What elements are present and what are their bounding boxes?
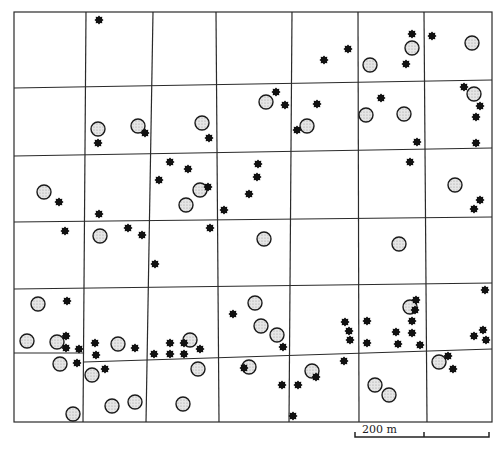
site-markers	[20, 36, 481, 421]
findspot-star-icon	[345, 335, 354, 344]
findspot-star-icon	[415, 340, 424, 349]
findspot-star-icon	[61, 331, 70, 340]
site-circle-icon	[91, 122, 105, 136]
grid-line-vertical	[358, 12, 359, 422]
findspot-star-icon	[407, 328, 416, 337]
site-circle-icon	[66, 407, 80, 421]
grid-line-horizontal	[84, 349, 492, 362]
findspot-star-icon	[362, 338, 371, 347]
grid-line-horizontal	[14, 283, 492, 289]
findspot-star-icon	[94, 209, 103, 218]
findspot-star-icon	[253, 159, 262, 168]
findspot-star-icon	[123, 223, 132, 232]
site-circle-icon	[93, 229, 107, 243]
grid-line-vertical	[289, 12, 292, 422]
site-circle-icon	[257, 232, 271, 246]
findspot-star-icon	[91, 350, 100, 359]
grid-line-horizontal	[14, 148, 492, 156]
scale-bar-label: 200 m	[362, 423, 397, 436]
findspot-star-icon	[481, 335, 490, 344]
site-circle-icon	[270, 328, 284, 342]
findspot-star-icon	[74, 344, 83, 353]
grid-line-horizontal	[14, 217, 492, 222]
findspot-star-icon	[480, 285, 489, 294]
site-circle-icon	[259, 95, 273, 109]
site-circle-icon	[363, 58, 377, 72]
findspot-star-icon	[271, 87, 280, 96]
grid-line-vertical	[83, 12, 86, 422]
findspot-star-icon	[312, 99, 321, 108]
site-circle-icon	[128, 395, 142, 409]
site-circle-icon	[465, 36, 479, 50]
findspot-star-icon	[94, 15, 103, 24]
findspot-star-icon	[411, 295, 420, 304]
findspot-star-icon	[165, 338, 174, 347]
findspot-star-icon	[280, 100, 289, 109]
findspot-star-icon	[401, 59, 410, 68]
findspot-star-icon	[219, 205, 228, 214]
site-circle-icon	[368, 378, 382, 392]
findspot-star-icon	[443, 351, 452, 360]
findspot-star-icon	[100, 364, 109, 373]
findspot-star-icon	[195, 344, 204, 353]
site-circle-icon	[50, 335, 64, 349]
findspot-star-icon	[140, 128, 149, 137]
findspot-star-icon	[61, 343, 70, 352]
findspot-star-icon	[165, 157, 174, 166]
findspot-star-icon	[391, 327, 400, 336]
findspot-star-icon	[179, 338, 188, 347]
findspot-star-icon	[410, 305, 419, 314]
findspot-star-icon	[228, 309, 237, 318]
findspot-star-icon	[340, 317, 349, 326]
findspot-star-icon	[90, 338, 99, 347]
grid-line-vertical	[424, 12, 427, 422]
site-circle-icon	[300, 119, 314, 133]
findspot-star-icon	[203, 182, 212, 191]
findspot-star-icon	[459, 82, 468, 91]
findspot-star-icon	[448, 364, 457, 373]
findspot-star-icon	[62, 296, 71, 305]
site-circle-icon	[85, 368, 99, 382]
site-circle-icon	[53, 357, 67, 371]
site-circle-icon	[397, 107, 411, 121]
findspot-star-icon	[407, 316, 416, 325]
findspot-star-icon	[478, 325, 487, 334]
site-circle-icon	[111, 337, 125, 351]
site-circle-icon	[448, 178, 462, 192]
findspot-star-icon	[412, 137, 421, 146]
findspot-star-icon	[405, 157, 414, 166]
findspot-star-icon	[204, 133, 213, 142]
findspot-star-icon	[93, 138, 102, 147]
findspot-star-icon	[183, 164, 192, 173]
findspot-star-icon	[427, 31, 436, 40]
findspot-star-icon	[130, 343, 139, 352]
findspot-star-icon	[469, 331, 478, 340]
site-circle-icon	[382, 388, 396, 402]
findspot-star-icon	[154, 175, 163, 184]
findspot-star-icon	[407, 29, 416, 38]
findspot-star-icon	[376, 93, 385, 102]
findspot-star-icon	[319, 55, 328, 64]
findspot-star-icon	[72, 358, 81, 367]
findspot-star-icon	[475, 101, 484, 110]
findspot-star-icon	[344, 326, 353, 335]
site-circle-icon	[31, 297, 45, 311]
grid-line-vertical	[216, 12, 219, 422]
site-circle-icon	[191, 362, 205, 376]
site-circle-icon	[176, 397, 190, 411]
findspot-star-icon	[239, 363, 248, 372]
site-circle-icon	[195, 116, 209, 130]
findspot-star-icon	[252, 172, 261, 181]
site-circle-icon	[179, 198, 193, 212]
findspot-star-icon	[471, 112, 480, 121]
findspot-star-icon	[362, 316, 371, 325]
site-circle-icon	[467, 87, 481, 101]
site-circle-icon	[392, 237, 406, 251]
site-circle-icon	[248, 296, 262, 310]
findspot-star-icon	[469, 204, 478, 213]
findspot-star-icon	[149, 349, 158, 358]
findspot-star-icon	[311, 372, 320, 381]
findspot-star-icon	[278, 342, 287, 351]
findspot-star-icon	[292, 125, 301, 134]
findspot-star-icon	[137, 230, 146, 239]
